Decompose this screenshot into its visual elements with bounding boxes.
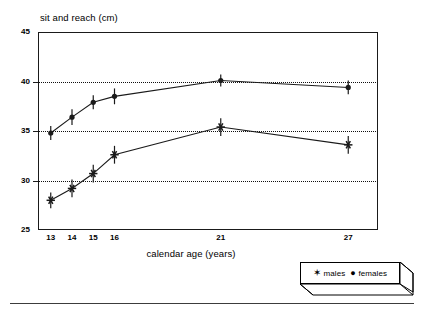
- y-tick-label-40: 40: [4, 77, 30, 86]
- y-tick-label-wrap: 25: [0, 225, 30, 235]
- legend-entries: ✶ males ● females: [300, 262, 400, 284]
- x-tick-label-21: 21: [216, 233, 225, 242]
- legend-item-males: ✶ males: [313, 268, 345, 278]
- x-tick-label-14: 14: [67, 233, 76, 242]
- chart-title: sit and reach (cm): [40, 12, 118, 23]
- y-tick-label-wrap: 40: [0, 77, 30, 87]
- x-axis-label-text: calendar age (years): [146, 248, 235, 259]
- gridline-30: [38, 181, 378, 182]
- legend-label-females: females: [358, 269, 387, 278]
- y-tick-label-25: 25: [4, 225, 30, 234]
- legend: ✶ males ● females: [296, 262, 416, 296]
- gridline-35: [38, 131, 378, 132]
- x-tick-label-15: 15: [89, 233, 98, 242]
- y-tick-30: [33, 181, 38, 182]
- asterisk-marker-icon: ✶: [313, 268, 321, 278]
- chart-figure: sit and reach (cm) 2530354045 1314151621…: [0, 0, 424, 315]
- y-tick-label-wrap: 45: [0, 27, 30, 37]
- y-tick-35: [33, 131, 38, 132]
- y-tick-40: [33, 82, 38, 83]
- y-tick-label-wrap: 30: [0, 176, 30, 186]
- y-tick-label-35: 35: [4, 126, 30, 135]
- footer-divider: [10, 303, 414, 304]
- x-tick-label-13: 13: [46, 233, 55, 242]
- y-tick-label-30: 30: [4, 176, 30, 185]
- y-tick-label-wrap: 35: [0, 126, 30, 136]
- x-tick-label-16: 16: [110, 233, 119, 242]
- legend-item-females: ● females: [350, 269, 387, 278]
- legend-label-males: males: [324, 269, 346, 278]
- y-tick-label-45: 45: [4, 27, 30, 36]
- filled-circle-marker-icon: ●: [350, 269, 356, 278]
- gridline-40: [38, 82, 378, 83]
- x-axis-label: calendar age (years): [0, 248, 424, 259]
- x-tick-label-27: 27: [344, 233, 353, 242]
